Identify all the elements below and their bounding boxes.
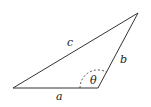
label-a: a xyxy=(56,90,63,103)
triangle-diagram: a b c θ xyxy=(0,0,151,107)
label-b: b xyxy=(120,53,127,66)
label-theta: θ xyxy=(90,74,97,87)
label-c: c xyxy=(67,36,73,49)
side-c xyxy=(13,13,138,88)
side-b xyxy=(98,13,138,88)
